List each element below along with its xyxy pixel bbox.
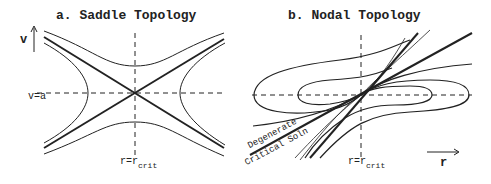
outer-right-loop: [320, 80, 469, 158]
r-crit-sub-a: crit: [138, 161, 157, 170]
right-hyperbola: [180, 43, 225, 145]
v-equals-a-label: v=a: [28, 91, 46, 102]
r-crit-main-b: r=r: [348, 156, 366, 167]
r-crit-label-b: r=rcrit: [348, 156, 385, 167]
upper-hyperbola: [44, 31, 224, 66]
nodal-title: b. Nodal Topology: [288, 8, 421, 23]
figure: a. Saddle Topology b. Nodal Topology v v…: [0, 0, 491, 184]
r-crit-label-a: r=rcrit: [120, 156, 157, 167]
saddle-panel: [31, 26, 226, 158]
diagram-canvas: [0, 0, 491, 184]
r-axis-label: r: [440, 156, 447, 170]
r-crit-sub-b: crit: [366, 161, 385, 170]
lower-hyperbola: [44, 122, 224, 156]
v-axis-label: v: [20, 33, 27, 47]
outer-left-loop: [254, 40, 410, 113]
inner-right-loop: [305, 86, 432, 158]
saddle-title: a. Saddle Topology: [56, 8, 196, 23]
lower-left-curve: [253, 95, 361, 126]
r-crit-main-a: r=r: [120, 156, 138, 167]
